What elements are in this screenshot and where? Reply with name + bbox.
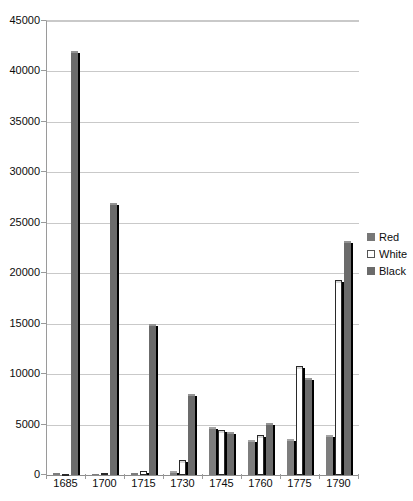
legend-label: Red [379, 231, 399, 243]
bar-white-1775 [296, 366, 305, 475]
bar-top-cap [344, 241, 351, 243]
x-axis-tick [202, 474, 203, 479]
x-axis-tick [241, 474, 242, 479]
legend-item-red[interactable]: Red [367, 229, 413, 245]
bar-body [296, 366, 303, 475]
y-axis-tick [41, 222, 46, 223]
gridline [47, 475, 359, 476]
bar-top-cap [227, 432, 234, 434]
bar-shadow [117, 205, 119, 475]
bar-black-1775 [305, 378, 314, 475]
bar-group [203, 21, 242, 475]
bar-body [179, 460, 186, 475]
bar-body [140, 471, 147, 475]
x-axis-tick-label: 1685 [53, 477, 77, 490]
bar-body [62, 474, 69, 476]
bar-body [257, 435, 264, 475]
bar-red-1775 [287, 439, 296, 475]
x-axis-tick-label: 1745 [209, 477, 233, 490]
bar-body [53, 473, 60, 475]
bar-red-1715 [131, 473, 140, 475]
y-axis-tick-label: 20000 [9, 267, 40, 278]
y-axis-tick [41, 121, 46, 122]
legend-label: White [379, 248, 407, 260]
x-axis-tick [46, 474, 47, 479]
bar-white-1715 [140, 471, 149, 475]
bar-chart: 0500010000150002000025000300003500040000… [0, 0, 413, 501]
bar-body [335, 280, 342, 475]
x-axis-tick-label: 1730 [170, 477, 194, 490]
x-axis-tick-label: 1790 [326, 477, 350, 490]
plot-area [46, 20, 359, 475]
bar-group [47, 21, 86, 475]
bar-red-1700 [92, 474, 101, 476]
bar-red-1790 [326, 435, 335, 475]
bar-white-1790 [335, 280, 344, 475]
bar-group [125, 21, 164, 475]
bar-top-cap [110, 203, 117, 205]
bar-white-1730 [179, 460, 188, 475]
bar-body [305, 378, 312, 475]
bar-body [287, 439, 294, 475]
y-axis-tick [41, 424, 46, 425]
y-axis-tick-label: 25000 [9, 216, 40, 227]
bar-white-1685 [62, 474, 71, 476]
chart-legend: RedWhiteBlack [367, 229, 413, 280]
bar-top-cap [258, 436, 263, 438]
y-axis: 0500010000150002000025000300003500040000… [0, 20, 40, 474]
legend-item-black[interactable]: Black [367, 263, 413, 279]
bar-body [248, 440, 255, 475]
bar-group [86, 21, 125, 475]
bar-group [281, 21, 320, 475]
bar-black-1745 [227, 432, 236, 475]
bar-body [170, 471, 177, 475]
y-axis-tick [41, 323, 46, 324]
y-axis-tick-label: 40000 [9, 65, 40, 76]
x-axis-tick-label: 1760 [248, 477, 272, 490]
bar-red-1760 [248, 440, 257, 475]
y-axis-tick [41, 373, 46, 374]
bar-top-cap [266, 423, 273, 425]
bar-body [326, 435, 333, 475]
bar-body [227, 432, 234, 475]
x-axis-tick-label: 1775 [287, 477, 311, 490]
bar-top-cap [188, 394, 195, 396]
x-axis-tick-label: 1700 [92, 477, 116, 490]
bar-black-1685 [71, 51, 80, 475]
bar-red-1745 [209, 427, 218, 475]
x-axis-tick [319, 474, 320, 479]
bar-red-1685 [53, 473, 62, 475]
bar-black-1700 [110, 203, 119, 475]
bar-shadow [156, 326, 158, 475]
bar-shadow [312, 380, 314, 475]
bar-black-1730 [188, 394, 197, 475]
swatch-black-icon [367, 267, 375, 275]
y-axis-tick-label: 35000 [9, 115, 40, 126]
bar-shadow [234, 434, 236, 475]
legend-item-white[interactable]: White [367, 246, 413, 262]
y-axis-tick [41, 70, 46, 71]
bar-shadow [195, 396, 197, 475]
bar-red-1730 [170, 471, 179, 475]
bar-top-cap [248, 440, 255, 442]
bar-top-cap [326, 435, 333, 437]
bar-top-cap [305, 378, 312, 380]
bar-body [101, 473, 108, 475]
x-axis-tick [358, 474, 359, 479]
x-axis-tick [85, 474, 86, 479]
bar-white-1700 [101, 473, 110, 475]
bar-body [209, 427, 216, 475]
x-axis-tick-label: 1715 [131, 477, 155, 490]
bar-group [320, 21, 359, 475]
y-axis-tick-label: 0 [34, 469, 40, 480]
bar-body [131, 473, 138, 475]
bar-top-cap [209, 427, 216, 429]
y-axis-tick-label: 5000 [16, 418, 40, 429]
bar-body [71, 51, 78, 475]
x-axis-tick [163, 474, 164, 479]
y-axis-tick-label: 30000 [9, 166, 40, 177]
bar-white-1745 [218, 430, 227, 475]
bar-body [110, 203, 117, 475]
y-axis-tick [41, 20, 46, 21]
bar-black-1715 [149, 324, 158, 475]
